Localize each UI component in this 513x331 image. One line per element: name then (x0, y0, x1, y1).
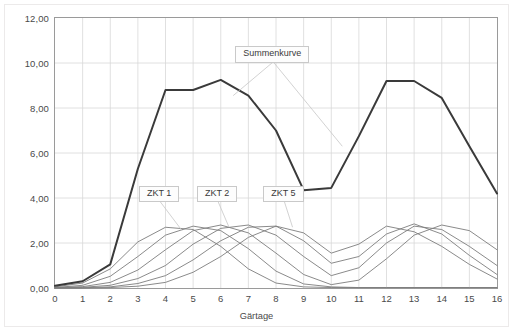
x-tick-label: 7 (246, 293, 251, 304)
x-tick-label: 11 (354, 293, 364, 304)
x-tick-label: 0 (52, 293, 57, 304)
x-tick-label: 1 (80, 293, 85, 304)
series-line (55, 225, 497, 288)
y-tick-label: 6,00 (30, 148, 49, 159)
series-line (55, 80, 497, 286)
y-tick-label: 0,00 (30, 283, 49, 294)
series-line (55, 224, 497, 288)
series-line (55, 227, 497, 287)
y-tick-label: 4,00 (30, 193, 49, 204)
x-tick-label: 4 (163, 293, 168, 304)
x-tick-label: 6 (218, 293, 223, 304)
x-tick-label: 10 (326, 293, 337, 304)
y-tick-label: 12,00 (25, 13, 49, 24)
callout-zkt-1[interactable]: ZKT 1 (139, 186, 179, 202)
x-axis-title: Gärtage (0, 311, 513, 321)
x-tick-label: 12 (381, 293, 392, 304)
x-tick-label: 14 (436, 293, 447, 304)
y-tick-label: 10,00 (25, 58, 49, 69)
x-tick-label: 2 (108, 293, 113, 304)
callout-zkt-5[interactable]: ZKT 5 (263, 186, 303, 202)
x-tick-label: 9 (301, 293, 306, 304)
series-line (55, 225, 497, 288)
x-tick-label: 16 (492, 293, 503, 304)
x-tick-label: 5 (190, 293, 195, 304)
chart-figure: Extraktabbau als vEs/(d ·100 kg) 0,002,0… (0, 0, 513, 331)
x-tick-label: 3 (135, 293, 140, 304)
x-tick-label: 8 (273, 293, 278, 304)
y-tick-label: 8,00 (30, 103, 49, 114)
x-tick-label: 13 (409, 293, 420, 304)
y-tick-label: 2,00 (30, 238, 49, 249)
x-tick-label: 15 (464, 293, 475, 304)
callout-summenkurve[interactable]: Summenkurve (235, 46, 309, 62)
callout-zkt-2[interactable]: ZKT 2 (197, 186, 237, 202)
